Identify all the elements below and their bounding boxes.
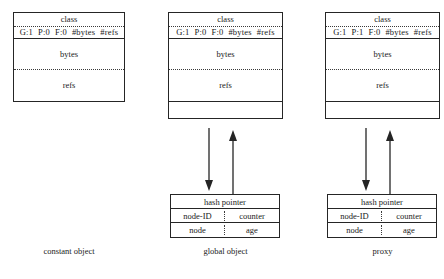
flag-generation: G:1 — [20, 28, 33, 37]
age-cell: age — [382, 225, 436, 235]
arrow-down-head — [205, 180, 213, 191]
flag-pointer: P:1 — [352, 28, 364, 37]
global-object-hash-arrows — [168, 128, 288, 194]
proxy-hash-table: hash pointer node-ID counter node age — [327, 194, 437, 238]
flag-forward: F:0 — [368, 28, 380, 37]
trailer-row — [326, 101, 439, 118]
class-header: class — [14, 13, 124, 26]
node-cell: node — [328, 225, 382, 235]
bytes-count-label: #bytes — [228, 28, 251, 37]
constant-object-box: class G:1 P:0 F:0 #bytes #refs bytes ref… — [13, 12, 125, 102]
flag-generation: G:1 — [333, 28, 346, 37]
class-header: class — [326, 13, 439, 26]
flag-generation: G:1 — [176, 28, 189, 37]
hash-pointer-title: hash pointer — [328, 195, 436, 209]
hash-table-row: node-ID counter — [171, 209, 279, 223]
class-header: class — [169, 13, 282, 26]
refs-count-label: #refs — [100, 28, 118, 37]
flag-forward: F:0 — [211, 28, 223, 37]
proxy-hash-arrows — [325, 128, 444, 194]
hash-pointer-title: hash pointer — [171, 195, 279, 209]
flag-forward: F:0 — [55, 28, 67, 37]
global-object-box: class G:1 P:0 F:0 #bytes #refs bytes ref… — [168, 12, 283, 119]
counter-cell: counter — [225, 211, 279, 221]
flag-pointer: P:0 — [195, 28, 207, 37]
bytes-count-label: #bytes — [72, 28, 95, 37]
flag-pointer: P:0 — [38, 28, 50, 37]
refs-count-label: #refs — [414, 28, 432, 37]
refs-section: refs — [14, 70, 124, 101]
node-id-cell: node-ID — [171, 211, 225, 221]
age-cell: age — [225, 225, 279, 235]
flags-row: G:1 P:0 F:0 #bytes #refs — [169, 26, 282, 39]
bytes-section: bytes — [326, 39, 439, 70]
node-cell: node — [171, 225, 225, 235]
arrow-up-head — [229, 130, 237, 141]
refs-section: refs — [169, 70, 282, 101]
hash-table-row: node age — [171, 223, 279, 237]
global-object-hash-table: hash pointer node-ID counter node age — [170, 194, 280, 238]
flags-row: G:1 P:0 F:0 #bytes #refs — [14, 26, 124, 39]
arrow-up-head — [386, 130, 394, 141]
flags-row: G:1 P:1 F:0 #bytes #refs — [326, 26, 439, 39]
caption-proxy: proxy — [325, 247, 440, 256]
hash-table-row: node age — [328, 223, 436, 237]
counter-cell: counter — [382, 211, 436, 221]
object-representation-diagram: class G:1 P:0 F:0 #bytes #refs bytes ref… — [0, 0, 444, 279]
caption-global-object: global object — [168, 247, 283, 256]
trailer-row — [169, 101, 282, 118]
refs-section: refs — [326, 70, 439, 101]
proxy-box: class G:1 P:1 F:0 #bytes #refs bytes ref… — [325, 12, 440, 119]
arrow-down-head — [362, 180, 370, 191]
bytes-section: bytes — [14, 39, 124, 70]
refs-count-label: #refs — [257, 28, 275, 37]
node-id-cell: node-ID — [328, 211, 382, 221]
bytes-section: bytes — [169, 39, 282, 70]
hash-table-row: node-ID counter — [328, 209, 436, 223]
caption-constant-object: constant object — [13, 247, 125, 256]
bytes-count-label: #bytes — [385, 28, 408, 37]
